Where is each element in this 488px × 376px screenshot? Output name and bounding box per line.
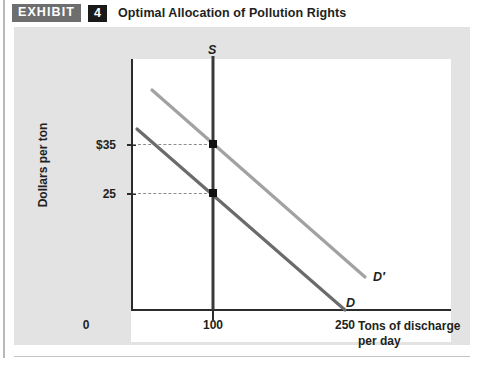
exhibit-title: Optimal Allocation of Pollution Rights [118, 6, 346, 20]
curve-label-d-prime: D′ [373, 270, 385, 284]
exhibit-header: EXHIBIT 4 Optimal Allocation of Pollutio… [12, 3, 346, 23]
curve-layer [14, 27, 470, 345]
demand-curve-d-prime [152, 90, 365, 277]
demand-curve-d [137, 129, 345, 310]
exhibit-tag: EXHIBIT [12, 4, 81, 22]
exhibit-number-badge: 4 [88, 5, 107, 22]
equilibrium-marker-25 [209, 189, 217, 197]
page-spine [3, 0, 5, 358]
curve-label-s: S [208, 43, 216, 57]
caption-area [14, 362, 470, 374]
chart-panel: Dollars per ton Tons of discharge per da… [14, 27, 470, 345]
curve-label-d: D [346, 296, 355, 310]
panel-bottom-rule [14, 356, 470, 357]
equilibrium-marker-35 [209, 140, 217, 148]
